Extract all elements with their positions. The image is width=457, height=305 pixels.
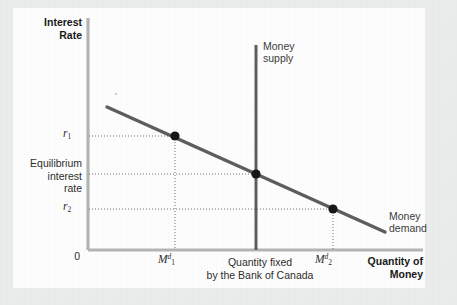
equilibrium-rate-label: Equilibrium interest rate [14,157,82,195]
data-point-r2-m2 [328,204,337,213]
money-market-figure: Interest Rate Quantity of Money Money su… [0,0,457,305]
money-demand-label: Money demand [389,211,455,234]
scan-artifact-speck [115,93,117,95]
leader-lines-r2 [89,209,333,250]
money-supply-label: Money supply [263,41,333,64]
quantity-fixed-note: Quantity fixed by the Bank of Canada [196,256,324,281]
y-tick-label-r2: r2 [63,200,71,212]
x-tick-label-m2: Md2 [315,253,332,265]
y-tick-label-r1: r1 [63,127,71,139]
data-point-equilibrium [251,169,260,178]
y-axis-title: Interest Rate [18,16,82,41]
origin-label: 0 [66,251,80,263]
data-point-r1-m1 [170,131,179,140]
money-demand-line [107,107,385,232]
x-tick-label-m1: Md1 [158,253,175,265]
x-axis-title: Quantity of Money [355,255,423,280]
leader-lines-r1 [89,136,175,250]
